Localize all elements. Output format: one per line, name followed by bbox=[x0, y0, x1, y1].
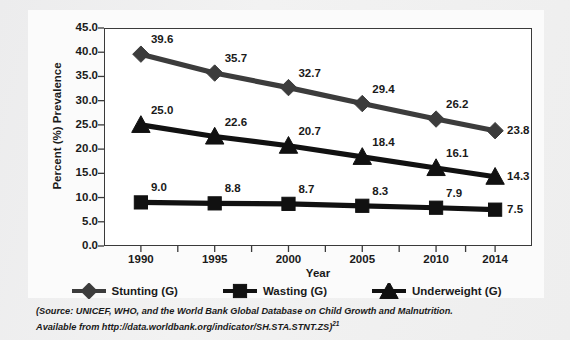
legend-label: Wasting (G) bbox=[263, 285, 327, 297]
data-point-label: 35.7 bbox=[225, 52, 247, 64]
data-point-label: 23.8 bbox=[507, 124, 529, 136]
source-note-url: Available from http://data.worldbank.org… bbox=[36, 322, 332, 332]
legend-square-icon bbox=[222, 283, 258, 299]
data-point-label: 25.0 bbox=[151, 104, 173, 116]
y-tick-label: 0.0 bbox=[54, 240, 98, 251]
data-point-label: 8.7 bbox=[298, 183, 314, 195]
data-point-label: 29.4 bbox=[372, 83, 394, 95]
chart-legend: Stunting (G)Wasting (G)Underweight (G) bbox=[28, 282, 544, 300]
legend-triangle-icon bbox=[371, 283, 407, 299]
legend-label: Underweight (G) bbox=[412, 285, 501, 297]
data-point-label: 26.2 bbox=[446, 98, 468, 110]
y-tick-label: 5.0 bbox=[54, 216, 98, 227]
source-note-reference: 21 bbox=[332, 320, 339, 327]
data-point-label: 7.9 bbox=[446, 187, 462, 199]
data-point-label: 22.6 bbox=[225, 116, 247, 128]
x-tick-label: 2014 bbox=[465, 253, 525, 265]
x-tick-label: 2010 bbox=[406, 253, 466, 265]
data-point-label: 32.7 bbox=[298, 67, 320, 79]
source-note-line2: Available from http://data.worldbank.org… bbox=[36, 318, 556, 334]
x-tick-label: 1990 bbox=[111, 253, 171, 265]
data-point-label: 20.7 bbox=[298, 125, 320, 137]
data-point-label: 8.8 bbox=[225, 182, 241, 194]
plot-area-frame bbox=[104, 28, 532, 246]
y-axis-title: Percent (%) Prevalence bbox=[51, 51, 63, 201]
data-point-label: 7.5 bbox=[507, 203, 523, 215]
source-note: (Source: UNICEF, WHO, and the World Bank… bbox=[36, 306, 556, 333]
legend-label: Stunting (G) bbox=[112, 285, 178, 297]
source-note-line1: (Source: UNICEF, WHO, and the World Bank… bbox=[36, 306, 556, 318]
legend-item[interactable]: Wasting (G) bbox=[222, 283, 327, 299]
figure-container: 0.05.010.015.020.025.030.035.040.045.0 P… bbox=[0, 0, 570, 340]
x-tick-label: 1995 bbox=[185, 253, 245, 265]
legend-item[interactable]: Underweight (G) bbox=[371, 283, 501, 299]
data-point-label: 8.3 bbox=[372, 185, 388, 197]
x-tick-label: 2005 bbox=[332, 253, 392, 265]
legend-diamond-icon bbox=[71, 283, 107, 299]
legend-item[interactable]: Stunting (G) bbox=[71, 283, 178, 299]
x-tick-label: 2000 bbox=[258, 253, 318, 265]
data-point-label: 16.1 bbox=[446, 147, 468, 159]
chart-card: 0.05.010.015.020.025.030.035.040.045.0 P… bbox=[28, 10, 544, 298]
data-point-label: 14.3 bbox=[507, 170, 529, 182]
x-axis-title: Year bbox=[104, 267, 532, 279]
data-point-label: 18.4 bbox=[372, 136, 394, 148]
data-point-label: 9.0 bbox=[151, 181, 167, 193]
y-tick-label: 45.0 bbox=[54, 22, 98, 33]
data-point-label: 39.6 bbox=[151, 33, 173, 45]
